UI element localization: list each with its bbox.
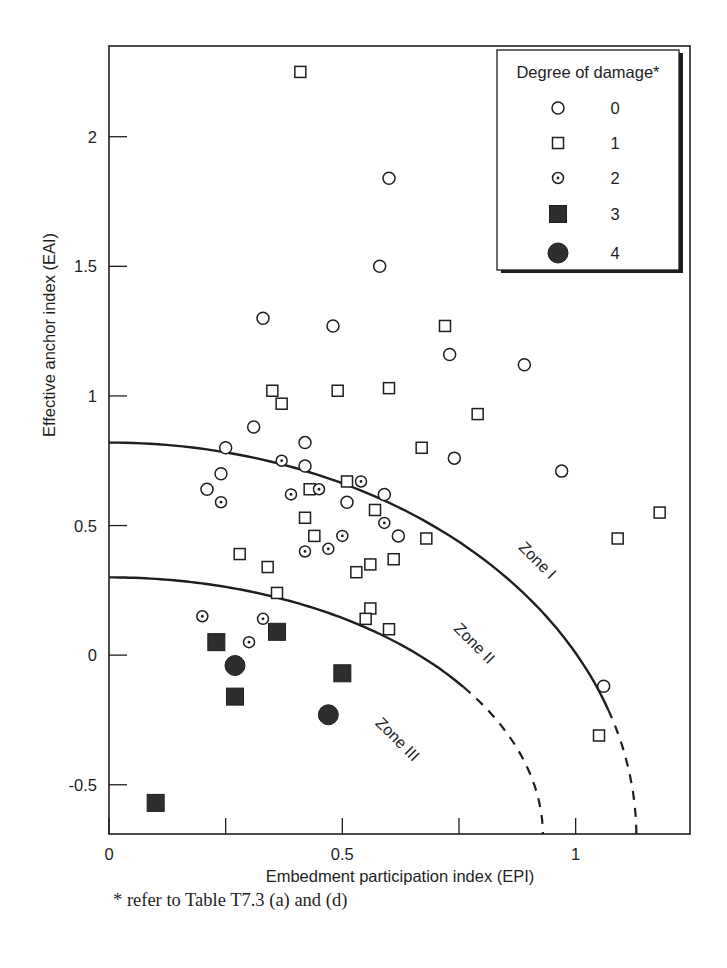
dotted-circle-center — [327, 547, 330, 550]
y-axis-label: Effective anchor index (EAI) — [40, 233, 58, 437]
data-point-degree-3 — [269, 623, 286, 640]
open-square-marker — [654, 507, 665, 518]
open-square-marker — [360, 613, 371, 624]
open-square-marker — [416, 442, 427, 453]
y-tick-label: 2 — [88, 128, 97, 146]
dotted-circle-center — [262, 617, 265, 620]
data-point-degree-1 — [421, 533, 432, 544]
open-square-marker — [370, 504, 381, 515]
open-circle-marker — [552, 102, 564, 114]
data-point-degree-0 — [341, 496, 353, 508]
data-point-degree-0 — [374, 260, 386, 272]
open-circle-marker — [448, 452, 460, 464]
data-point-degree-2 — [244, 637, 255, 648]
data-point-degree-1 — [654, 507, 665, 518]
zone-boundaries — [109, 443, 636, 837]
dotted-circle-center — [248, 641, 251, 644]
legend-label: 4 — [610, 244, 619, 262]
dotted-circle-center — [280, 459, 283, 462]
dotted-circle-center — [304, 550, 307, 553]
open-square-marker — [309, 530, 320, 541]
data-point-degree-0 — [248, 421, 260, 433]
data-point-degree-2 — [276, 455, 287, 466]
data-point-degree-0 — [448, 452, 460, 464]
filled-circle-marker — [548, 243, 568, 263]
data-point-degree-1 — [472, 409, 483, 420]
data-point-degree-4 — [318, 705, 338, 725]
data-point-degree-0 — [556, 465, 568, 477]
data-point-degree-1 — [342, 476, 353, 487]
data-point-degree-2 — [216, 497, 227, 508]
legend-label: 2 — [610, 169, 619, 187]
data-point-degree-2 — [197, 611, 208, 622]
legend-label: 0 — [610, 99, 619, 117]
x-tick-label: 0 — [104, 845, 113, 863]
zone-labels: Zone IZone IIZone III — [372, 538, 559, 764]
data-point-degree-1 — [351, 567, 362, 578]
data-point-degree-1 — [272, 587, 283, 598]
open-square-marker — [272, 587, 283, 598]
data-point-degree-2 — [356, 476, 367, 487]
open-square-marker — [267, 385, 278, 396]
legend-marker-2 — [553, 173, 564, 184]
open-square-marker — [612, 533, 623, 544]
data-point-degree-0 — [299, 437, 311, 449]
dotted-circle-center — [290, 493, 293, 496]
zone-label: Zone III — [372, 714, 422, 764]
data-point-degree-0 — [257, 312, 269, 324]
open-square-marker — [388, 554, 399, 565]
data-point-degree-1 — [384, 624, 395, 635]
dotted-circle-center — [201, 615, 204, 618]
data-point-degree-1 — [388, 554, 399, 565]
data-point-degree-0 — [327, 320, 339, 332]
data-point-degree-3 — [208, 634, 225, 651]
footnote: * refer to Table T7.3 (a) and (d) — [113, 890, 347, 911]
open-circle-marker — [299, 437, 311, 449]
y-tick-label: 0.5 — [74, 517, 97, 535]
data-point-degree-2 — [314, 484, 325, 495]
open-square-marker — [384, 624, 395, 635]
open-circle-marker — [378, 488, 390, 500]
y-tick-label: 1 — [88, 387, 97, 405]
open-circle-marker — [518, 359, 530, 371]
scatter-chart: 00.51-0.500.511.52 Zone IZone IIZone III… — [0, 0, 727, 968]
data-point-degree-1 — [440, 320, 451, 331]
zone-I-boundary-dashed — [608, 710, 636, 837]
data-point-degree-3 — [147, 794, 164, 811]
legend-marker-3 — [550, 206, 567, 223]
data-point-degree-0 — [299, 460, 311, 472]
open-circle-marker — [248, 421, 260, 433]
open-square-marker — [365, 559, 376, 570]
data-point-degree-2 — [379, 517, 390, 528]
open-circle-marker — [598, 680, 610, 692]
open-circle-marker — [327, 320, 339, 332]
y-tick-label: 0 — [88, 646, 97, 664]
filled-square-marker — [208, 634, 225, 651]
data-point-degree-1 — [309, 530, 320, 541]
open-square-marker — [342, 476, 353, 487]
open-square-marker — [553, 138, 564, 149]
filled-square-marker — [269, 623, 286, 640]
data-point-degree-1 — [594, 730, 605, 741]
data-point-degree-3 — [227, 688, 244, 705]
data-point-degree-0 — [220, 442, 232, 454]
dotted-circle-center — [557, 177, 560, 180]
open-circle-marker — [220, 442, 232, 454]
data-point-degree-4 — [225, 656, 245, 676]
data-point-degree-2 — [300, 546, 311, 557]
data-point-degree-2 — [286, 489, 297, 500]
data-point-degree-2 — [323, 543, 334, 554]
open-circle-marker — [444, 348, 456, 360]
dotted-circle-center — [341, 535, 344, 538]
open-circle-marker — [341, 496, 353, 508]
open-square-marker — [594, 730, 605, 741]
data-point-degree-1 — [416, 442, 427, 453]
open-square-marker — [234, 549, 245, 560]
data-point-degree-1 — [295, 66, 306, 77]
x-tick-label: 0.5 — [331, 845, 354, 863]
open-square-marker — [295, 66, 306, 77]
open-square-marker — [365, 603, 376, 614]
legend: Degree of damage*01234 — [497, 50, 683, 273]
y-tick-label: -0.5 — [69, 776, 97, 794]
dotted-circle-center — [318, 488, 321, 491]
